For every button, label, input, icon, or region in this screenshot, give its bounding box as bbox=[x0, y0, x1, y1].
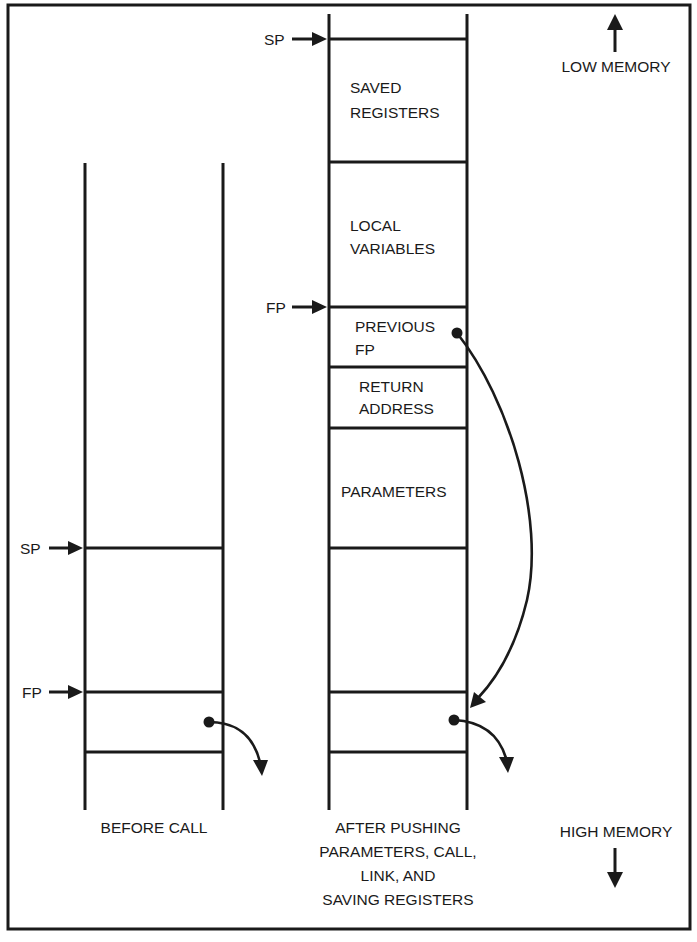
cell-parameters: PARAMETERS bbox=[341, 483, 447, 500]
cell-saved-registers: SAVED REGISTERS bbox=[350, 79, 440, 121]
arrow-down-icon bbox=[253, 760, 268, 776]
arrow-right-icon bbox=[312, 32, 327, 46]
svg-text:AFTER PUSHING: AFTER PUSHING bbox=[335, 819, 461, 836]
svg-text:PARAMETERS: PARAMETERS bbox=[341, 483, 447, 500]
low-memory-label: LOW MEMORY bbox=[561, 58, 670, 75]
cell-return-address: RETURN ADDRESS bbox=[359, 378, 434, 417]
before-fp-label: FP bbox=[22, 684, 42, 701]
after-fp-pointer: FP bbox=[266, 299, 327, 316]
arrow-right-icon bbox=[312, 300, 327, 314]
low-memory-indicator: LOW MEMORY bbox=[561, 14, 670, 75]
before-sp-label: SP bbox=[20, 540, 41, 557]
before-call-stack bbox=[85, 163, 223, 810]
svg-text:SAVING REGISTERS: SAVING REGISTERS bbox=[322, 891, 473, 908]
after-sp-label: SP bbox=[264, 31, 285, 48]
arrow-right-icon bbox=[68, 541, 83, 555]
stack-frame-diagram: SP FP BEFORE CALL SAVED REGISTERS LOCAL … bbox=[0, 0, 697, 942]
arrow-down-icon bbox=[499, 757, 514, 773]
arrow-down-icon bbox=[607, 872, 623, 888]
svg-text:LOCAL: LOCAL bbox=[350, 217, 401, 234]
after-fp-label: FP bbox=[266, 299, 286, 316]
svg-text:PARAMETERS, CALL,: PARAMETERS, CALL, bbox=[319, 843, 476, 860]
svg-text:VARIABLES: VARIABLES bbox=[350, 240, 435, 257]
before-fp-pointer: FP bbox=[22, 684, 83, 701]
svg-text:PREVIOUS: PREVIOUS bbox=[355, 318, 435, 335]
before-frame-link-arrow bbox=[204, 717, 269, 777]
svg-text:REGISTERS: REGISTERS bbox=[350, 104, 440, 121]
svg-text:SAVED: SAVED bbox=[350, 79, 401, 96]
svg-text:LINK, AND: LINK, AND bbox=[361, 867, 436, 884]
arrow-right-icon bbox=[68, 685, 83, 699]
after-call-caption: AFTER PUSHING PARAMETERS, CALL, LINK, AN… bbox=[319, 819, 476, 908]
high-memory-indicator: HIGH MEMORY bbox=[560, 823, 673, 888]
before-call-caption: BEFORE CALL bbox=[101, 819, 208, 836]
diagram-frame bbox=[8, 5, 690, 929]
after-sp-pointer: SP bbox=[264, 31, 327, 48]
cell-previous-fp: PREVIOUS FP bbox=[355, 318, 435, 358]
cell-local-variables: LOCAL VARIABLES bbox=[350, 217, 435, 257]
arrow-down-left-icon bbox=[470, 692, 486, 708]
before-sp-pointer: SP bbox=[20, 540, 83, 557]
after-frame-link-arrow bbox=[449, 715, 515, 774]
arrow-up-icon bbox=[607, 14, 623, 30]
svg-text:FP: FP bbox=[355, 341, 375, 358]
high-memory-label: HIGH MEMORY bbox=[560, 823, 673, 840]
svg-text:ADDRESS: ADDRESS bbox=[359, 400, 434, 417]
previous-fp-link-arrow bbox=[452, 328, 532, 709]
svg-text:RETURN: RETURN bbox=[359, 378, 424, 395]
